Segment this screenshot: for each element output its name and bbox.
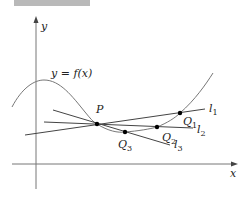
secant-line-l3 [53,110,170,145]
secant-line-l2 [44,122,193,128]
curve-label: y = f(x) [50,67,92,80]
line-l3-label: l3 [174,138,183,153]
y-axis-arrow-icon [34,16,39,23]
x-axis-label: x [230,167,237,180]
line-l1-label: l1 [209,102,218,117]
line-l2-label: l2 [197,123,206,138]
point-Q2 [155,125,159,129]
point-Q1-label: Q1 [183,115,197,130]
point-P-label: P [95,103,104,116]
point-Q3-label: Q3 [118,138,132,153]
point-P [95,122,99,126]
x-axis-arrow-icon [231,162,238,167]
point-Q1 [178,111,182,115]
point-Q3 [123,130,127,134]
y-axis-label: y [40,20,48,33]
secant-lines-diagram: y x y = f(x) P Q1 Q2 Q3 l1 l2 l3 [0,0,249,199]
